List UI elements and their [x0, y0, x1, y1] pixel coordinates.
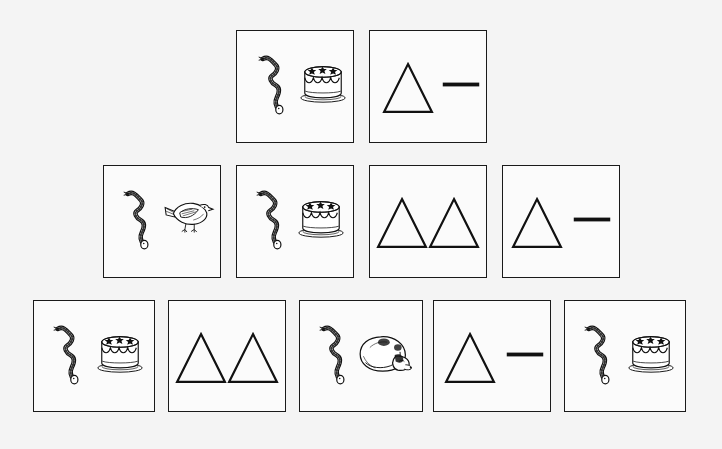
- card-content: [237, 31, 353, 142]
- card-content: [370, 31, 486, 142]
- snake-icon: [247, 53, 295, 115]
- snake-icon: [112, 188, 160, 250]
- card-content: [503, 166, 619, 277]
- card-content: [169, 301, 285, 411]
- triangle-icon: [227, 323, 279, 393]
- triangle-icon: [511, 188, 563, 258]
- picture-card-row3-card2[interactable]: [168, 300, 286, 412]
- picture-card-row2-card2[interactable]: [236, 165, 354, 278]
- card-array-stage: [0, 0, 722, 449]
- triangle-icon: [175, 323, 227, 393]
- picture-card-row3-card1[interactable]: [33, 300, 155, 412]
- triangle-icon: [382, 53, 434, 123]
- cake-icon: [297, 196, 345, 240]
- triangle-icon: [376, 188, 428, 258]
- picture-card-row3-card3[interactable]: [299, 300, 423, 412]
- card-content: [434, 301, 550, 411]
- sleeping-dog-icon: [358, 333, 414, 375]
- card-content: [237, 166, 353, 277]
- snake-icon: [573, 323, 621, 385]
- snake-icon: [308, 323, 356, 385]
- picture-card-row2-card4[interactable]: [502, 165, 620, 278]
- snake-icon: [245, 188, 293, 250]
- bird-icon: [162, 194, 214, 242]
- card-content: [300, 301, 422, 411]
- picture-card-row2-card1[interactable]: [103, 165, 221, 278]
- cake-icon: [96, 331, 144, 375]
- picture-card-row2-card3[interactable]: [369, 165, 487, 278]
- dash-icon: [506, 351, 544, 358]
- dash-icon: [573, 216, 611, 223]
- card-content: [104, 166, 220, 277]
- cake-icon: [299, 61, 347, 105]
- picture-card-row1-card1[interactable]: [236, 30, 354, 143]
- picture-card-row1-card2[interactable]: [369, 30, 487, 143]
- snake-icon: [42, 323, 90, 385]
- card-content: [370, 166, 486, 277]
- cake-icon: [627, 331, 675, 375]
- picture-card-row3-card4[interactable]: [433, 300, 551, 412]
- card-content: [565, 301, 685, 411]
- picture-card-row3-card5[interactable]: [564, 300, 686, 412]
- triangle-icon: [428, 188, 480, 258]
- triangle-icon: [444, 323, 496, 393]
- card-content: [34, 301, 154, 411]
- dash-icon: [442, 81, 480, 88]
